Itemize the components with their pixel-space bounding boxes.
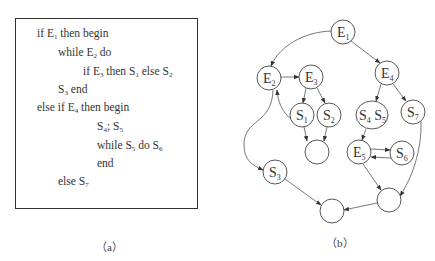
edge-S3-J3 <box>285 179 321 205</box>
node-E4: E4 <box>375 61 399 85</box>
node-J3 <box>320 199 344 223</box>
edge-E2-S3 <box>244 90 273 170</box>
edge-E3-S1 <box>303 88 306 103</box>
node-E5: E5 <box>347 140 371 164</box>
edge-E4-S7 <box>393 84 406 101</box>
edge-E5-S6 <box>371 149 390 150</box>
node-E2: E2 <box>257 66 281 90</box>
edge-E3-S2 <box>317 88 325 103</box>
node-S7: S7 <box>401 100 425 124</box>
caption-b: （b） <box>326 234 354 250</box>
node-S4S5: S4 S5 <box>356 101 388 129</box>
node-J1 <box>305 140 329 164</box>
node-J2 <box>377 188 401 212</box>
edge-E5-J2 <box>363 164 381 190</box>
edge-E4-S4S5 <box>376 84 381 101</box>
edge-E1-E2 <box>271 31 331 66</box>
node-S1: S1 <box>290 103 314 127</box>
node-S6: S6 <box>390 141 414 165</box>
edge-S1-J1 <box>304 127 307 141</box>
edge-S2-J1 <box>324 127 327 141</box>
edge-E1-E4 <box>351 41 380 63</box>
edge-S6-E5 <box>371 157 391 158</box>
edge-J2-J3 <box>344 203 377 210</box>
node-S2: S2 <box>317 103 341 127</box>
control-flow-graph: E1E2E3E4S1S2S4 S5S7E5S6S3 <box>0 0 435 261</box>
node-S3: S3 <box>263 160 287 184</box>
edge-S4S5-E5 <box>362 129 366 140</box>
svg-text:S4 S5: S4 S5 <box>359 108 386 125</box>
node-E3: E3 <box>299 65 323 89</box>
node-E1: E1 <box>331 20 355 44</box>
